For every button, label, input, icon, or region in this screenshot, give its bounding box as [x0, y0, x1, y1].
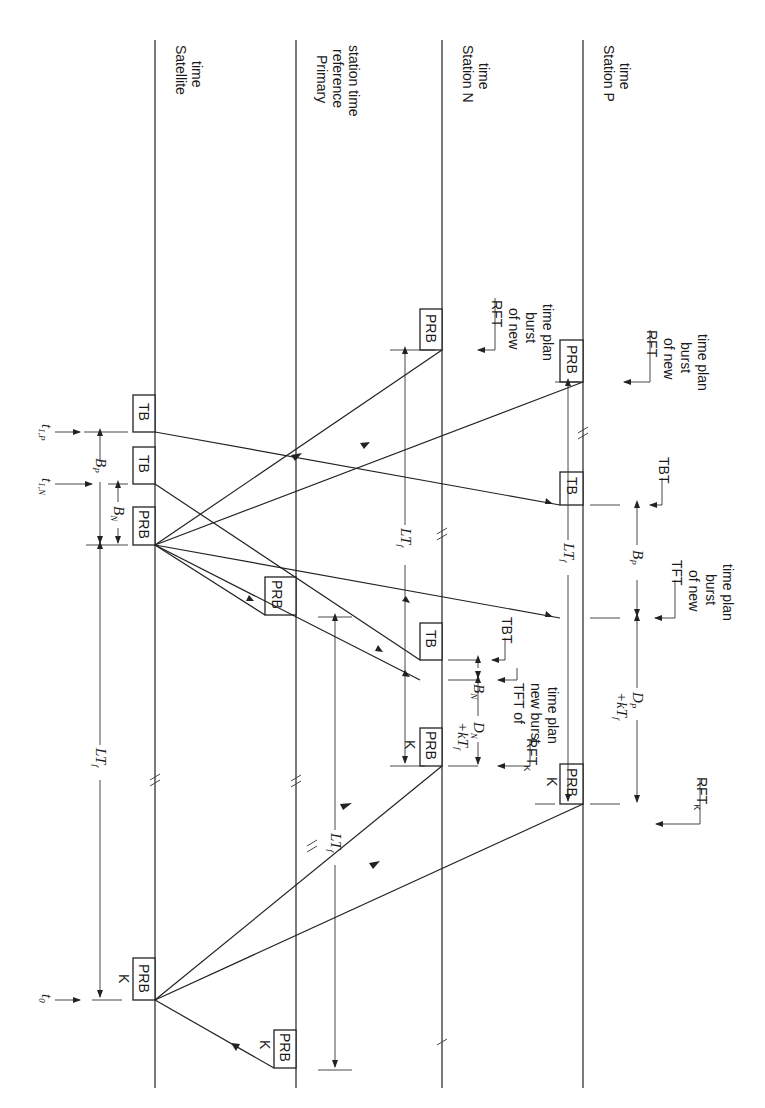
svg-text:time: time [617, 63, 633, 90]
svg-text:LTf: LTf [396, 527, 414, 548]
svg-text:BP: BP [628, 550, 646, 565]
station-n-label: Station N time [460, 45, 492, 103]
lt-n-dimension: LTf [396, 353, 414, 763]
sat-prb-new: PRB [133, 507, 155, 545]
svg-text:burst: burst [523, 312, 539, 343]
satellite-label: Satellite time [173, 45, 205, 95]
p-tft-annotation: TFT of new burst time plan [655, 560, 736, 621]
svg-text:BN: BN [109, 506, 127, 522]
n-rft-new-annotation: RFT of new burst time plan [478, 298, 556, 361]
n-rftk-annotation: RFTK [498, 738, 540, 771]
bn-dimension: BN [109, 487, 127, 543]
arrow [369, 861, 380, 869]
primary-reference-label: Primary reference station time [314, 45, 362, 117]
svg-text:TB: TB [423, 630, 439, 648]
svg-text:Station P: Station P [601, 45, 617, 102]
svg-text:K: K [402, 740, 418, 750]
svg-text:t0: t0 [37, 994, 55, 1003]
svg-text:time: time [476, 63, 492, 90]
break-marks [150, 427, 588, 1045]
svg-text:RFT: RFT [489, 300, 505, 328]
svg-text:reference: reference [330, 49, 346, 108]
arrow [246, 595, 254, 601]
p-rft-new-annotation: RFT of new burst time plan [624, 330, 711, 391]
svg-text:TB: TB [564, 477, 580, 495]
svg-text:K: K [257, 1040, 273, 1050]
svg-text:time plan: time plan [695, 334, 711, 391]
arrow [545, 498, 553, 504]
p-prb-k: PRB K [544, 764, 583, 804]
path-prbk-to-p [155, 804, 583, 1000]
arrow [545, 611, 553, 617]
path-prb-new-to-p [155, 382, 583, 545]
svg-text:TB: TB [136, 455, 152, 473]
svg-text:PRB: PRB [136, 510, 152, 539]
svg-text:time plan: time plan [545, 687, 561, 744]
n-tft-annotation: TFT of new burst time plan [498, 668, 561, 744]
svg-text:time: time [189, 61, 205, 88]
svg-text:PRB: PRB [564, 768, 580, 797]
svg-text:PRB: PRB [423, 314, 439, 343]
lt-primary-dimension: LTf [326, 620, 344, 1067]
sat-tb-p: TB [133, 395, 155, 432]
svg-text:Station N: Station N [460, 45, 476, 103]
svg-text:TFT of: TFT of [511, 683, 527, 724]
svg-text:K: K [544, 777, 560, 787]
svg-text:t1,N: t1,N [37, 478, 55, 496]
svg-text:PRB: PRB [423, 731, 439, 760]
svg-text:TFT: TFT [669, 560, 685, 586]
sat-tb-n: TB [133, 447, 155, 484]
arrow [360, 442, 370, 449]
svg-text:K: K [116, 974, 132, 984]
svg-text:LTf: LTf [326, 832, 344, 853]
svg-text:RFT: RFT [644, 330, 660, 358]
tdma-timing-diagram: Satellite time Primary reference station… [0, 0, 765, 1108]
svg-text:RFTK: RFTK [692, 777, 710, 810]
svg-text:+kTf: +kTf [453, 722, 471, 751]
lt-satellite-dimension: LTf [91, 548, 109, 997]
p-rftk-annotation: RFTK [656, 777, 710, 824]
p-tb: TB [560, 472, 583, 505]
sat-prb-k: PRB K [116, 958, 155, 1000]
svg-text:RFTK: RFTK [522, 738, 540, 771]
station-p-label: Station P time [601, 45, 633, 102]
svg-text:station time: station time [346, 45, 362, 117]
svg-text:of new: of new [686, 570, 702, 612]
svg-text:Satellite: Satellite [173, 45, 189, 95]
n-prb-new: PRB [420, 309, 442, 350]
svg-text:time plan: time plan [720, 564, 736, 621]
path-tb-n [155, 484, 420, 660]
svg-text:burst: burst [703, 574, 719, 605]
bp-dimension: BP [91, 435, 109, 543]
n-prb-k: PRB K [402, 728, 442, 766]
n-tb: TB [420, 623, 442, 660]
svg-text:time plan: time plan [540, 304, 556, 361]
svg-text:PRB: PRB [277, 1033, 293, 1062]
p-prb-new: PRB [560, 340, 583, 382]
svg-text:of new: of new [661, 338, 677, 380]
svg-text:TB: TB [136, 403, 152, 421]
arrow [375, 645, 383, 652]
svg-text:t1,P: t1,P [37, 424, 55, 441]
n-tbt-annotation: TBT [492, 617, 515, 660]
svg-text:TBT: TBT [499, 617, 515, 644]
t1p-mark: t1,P [37, 424, 128, 441]
svg-text:new burst: new burst [528, 683, 544, 744]
p-tbt-annotation: TBT [650, 457, 672, 505]
path-primary-k-up [155, 1000, 274, 1068]
svg-text:TBT: TBT [656, 457, 672, 484]
svg-text:+kTf: +kTf [612, 692, 630, 721]
svg-text:PRB: PRB [136, 964, 152, 993]
path-tft-p-up [155, 545, 560, 618]
svg-text:of new: of new [506, 308, 522, 350]
path-tft-n-up [155, 545, 420, 680]
arrow [402, 596, 410, 603]
svg-text:LTf: LTf [559, 542, 577, 563]
svg-text:burst: burst [678, 342, 694, 373]
svg-text:BP: BP [91, 458, 109, 473]
svg-text:PRB: PRB [564, 345, 580, 374]
t0-mark: t0 [37, 994, 122, 1003]
path-tb-p [155, 432, 560, 505]
path-prbk-to-n [155, 766, 442, 1000]
path-prb-new-to-n [155, 350, 442, 545]
